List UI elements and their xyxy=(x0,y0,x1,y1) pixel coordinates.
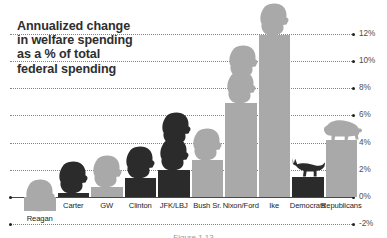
y-axis-tick-label: 10% xyxy=(359,56,375,65)
left-axis-dot xyxy=(9,223,12,226)
bar-bush-sr-[interactable] xyxy=(192,160,224,197)
bar-gw[interactable] xyxy=(91,187,123,197)
figure-caption: Figure 1.13 xyxy=(0,233,387,238)
president-head-dark-double-icon xyxy=(158,111,189,171)
y-axis-tick-label: 8% xyxy=(359,83,371,92)
plot-area: 12%10%8%6%4%2%0%-2%ReaganCarterGWClinton… xyxy=(10,0,358,238)
president-head-dark-icon xyxy=(125,145,156,179)
y-axis-tick-label: 2% xyxy=(359,165,371,174)
president-head-dark-icon xyxy=(58,160,89,194)
x-axis-label-republicans: Republicans xyxy=(320,201,364,210)
bar-republicans[interactable] xyxy=(326,140,358,197)
bar-ike[interactable] xyxy=(259,35,291,197)
president-head-light-icon xyxy=(259,2,290,36)
y-axis-tick-label: 12% xyxy=(359,29,375,38)
bar-jfk-lbj[interactable] xyxy=(158,170,190,197)
donkey-icon xyxy=(288,155,328,178)
y-axis-tick-label: 0% xyxy=(359,192,371,201)
president-head-light-icon xyxy=(91,154,122,188)
left-axis-dot xyxy=(9,196,12,199)
bar-democrats[interactable] xyxy=(292,177,324,197)
bar-clinton[interactable] xyxy=(125,178,157,197)
y-axis-tick-label: -2% xyxy=(359,219,373,228)
president-head-light-double-icon xyxy=(225,44,256,104)
bar-nixon-ford[interactable] xyxy=(225,103,257,197)
elephant-icon xyxy=(319,119,363,141)
x-axis-label-reagan: Reagan xyxy=(18,214,62,223)
president-head-light-icon xyxy=(192,127,223,161)
welfare-spending-bar-chart: Annualized change in welfare spending as… xyxy=(0,0,387,238)
